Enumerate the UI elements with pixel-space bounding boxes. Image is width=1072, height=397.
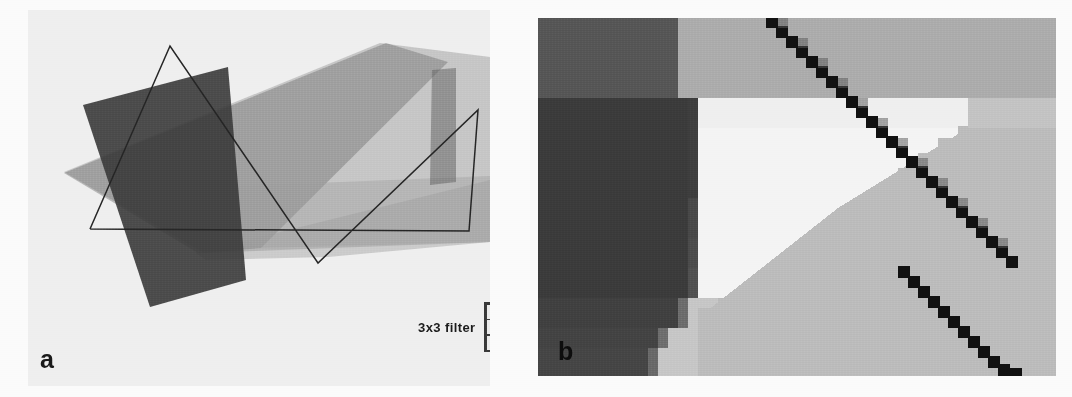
region-dark-lower [538, 328, 658, 348]
panel-a: 3x3 filter [28, 10, 490, 386]
region-dark-step [688, 198, 698, 238]
region-dark-step [688, 268, 698, 298]
region-dark-lower [538, 298, 678, 328]
filter-cell [487, 305, 490, 319]
region-dark-lower-edge [678, 298, 688, 328]
panel-b-graphic [538, 18, 1056, 376]
region-dark-lower-edge [658, 328, 668, 348]
figure-root: 3x3 filter [0, 0, 1072, 397]
filter-cell [487, 336, 490, 350]
region-dark-upper-left [538, 18, 678, 98]
region-dark-step [688, 98, 698, 198]
shape-dark-right-sliver [430, 68, 456, 185]
panel-letter-a: a [40, 345, 54, 374]
filter-grid-a [485, 303, 490, 351]
filter-label-a: 3x3 filter [418, 320, 475, 335]
region-top-mid-gray-right [678, 18, 1056, 98]
region-dark-lower [538, 348, 648, 376]
filter-annotation-a: 3x3 filter [418, 303, 490, 351]
panel-b: 3x3 filter [538, 18, 1056, 376]
region-right-light-band [968, 98, 1056, 128]
panel-letter-b: b [558, 337, 573, 366]
region-dark-lower-edge [648, 348, 658, 376]
region-bright-white-top [698, 98, 968, 128]
filter-cell [487, 320, 490, 334]
region-darkest-left-upper [538, 98, 698, 198]
